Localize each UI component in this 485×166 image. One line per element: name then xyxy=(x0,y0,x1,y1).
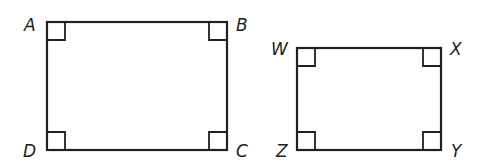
right-angle-icon-c xyxy=(209,132,227,150)
vertex-label-x: X xyxy=(449,39,462,59)
vertex-label-b: B xyxy=(236,15,248,35)
rectangle-abcd: A B C D xyxy=(23,15,248,161)
right-angle-icon-a xyxy=(47,22,65,40)
rectangle-wxyz: W X Y Z xyxy=(271,39,463,161)
right-angle-icon-z xyxy=(297,132,315,150)
vertex-label-z: Z xyxy=(275,141,288,161)
rectangle-abcd-outline xyxy=(47,22,227,150)
vertex-label-y: Y xyxy=(451,141,463,161)
right-angle-icon-d xyxy=(47,132,65,150)
right-angle-icon-x xyxy=(423,48,441,66)
right-angle-icon-w xyxy=(297,48,315,66)
vertex-label-c: C xyxy=(236,141,248,161)
rectangle-wxyz-outline xyxy=(297,48,441,150)
right-angle-icon-b xyxy=(209,22,227,40)
rectangles-diagram: A B C D W X Y Z xyxy=(0,0,485,166)
right-angle-icon-y xyxy=(423,132,441,150)
vertex-label-a: A xyxy=(23,15,36,35)
vertex-label-d: D xyxy=(23,141,36,161)
vertex-label-w: W xyxy=(271,39,289,59)
